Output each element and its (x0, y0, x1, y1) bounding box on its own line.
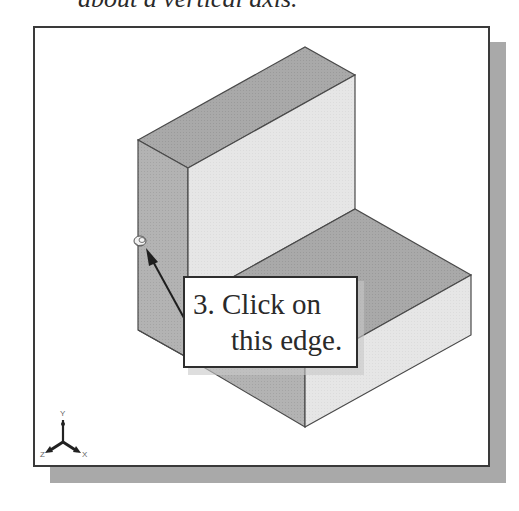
triad-y-label: Y (60, 409, 65, 418)
triad-x-label: X (82, 450, 87, 459)
callout-line-1: 3. Click on (193, 286, 356, 322)
model-drawing (0, 0, 519, 511)
callout-line-2: this edge. (193, 322, 356, 358)
instruction-callout: 3. Click on this edge. (183, 276, 358, 368)
rotate-cursor-icon (134, 236, 146, 246)
upright-left-face (138, 140, 188, 358)
page: about a vertical axis. (0, 0, 519, 511)
triad-z-label: Z (40, 450, 45, 459)
coordinate-triad-icon (45, 420, 81, 453)
